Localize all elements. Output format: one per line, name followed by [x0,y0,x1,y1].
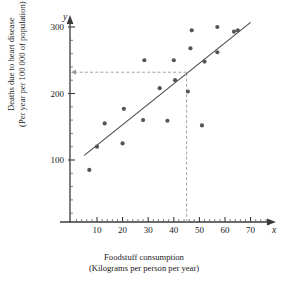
x-axis-tick-label: 50 [195,225,205,235]
x-axis-tick-label: 20 [118,225,128,235]
y-axis-tick-label: 300 [51,22,65,32]
x-axis-tick-label: 30 [144,225,154,235]
data-point [188,46,192,50]
scatter-plot-figure: 10203040506070100200300yx Deaths due to … [0,0,288,285]
x-axis-symbol: x [271,225,277,235]
x-axis-tick-label: 60 [221,225,231,235]
y-axis-caption-sub: (Per year per 100 000 of population) [17,0,28,144]
data-point [215,25,219,29]
data-point [122,107,126,111]
y-axis-tick-label: 200 [51,89,65,99]
x-axis-caption-main: Foodstuff consumption [0,252,288,263]
x-axis-tick-label: 70 [246,225,256,235]
data-point [158,86,162,90]
data-point [141,118,145,122]
plot-canvas: 10203040506070100200300yx [0,0,288,285]
y-axis-tick-label: 100 [51,155,65,165]
data-point [215,50,219,54]
data-point [87,168,91,172]
data-point [103,121,107,125]
data-point [190,28,194,32]
x-axis-caption-sub: (Kilograms per person per year) [0,263,288,274]
y-axis-caption-main: Deaths due to heart disease [6,0,17,144]
data-point [142,58,146,62]
data-point [172,58,176,62]
data-point [236,28,240,32]
y-axis-arrow-icon [67,15,74,24]
data-point [202,59,206,63]
y-axis-symbol: y [62,12,68,22]
y-axis-caption: Deaths due to heart disease (Per year pe… [6,0,28,144]
data-point [186,89,190,93]
regression-line [84,22,250,155]
guide-arrow-icon [71,70,76,75]
data-point [232,30,236,34]
x-axis-tick-label: 10 [93,225,103,235]
data-point [165,119,169,123]
data-point [121,141,125,145]
x-axis-caption: Foodstuff consumption (Kilograms per per… [0,252,288,273]
x-axis-tick-label: 40 [169,225,179,235]
data-point [95,145,99,149]
data-point [200,123,204,127]
data-point [173,78,177,82]
